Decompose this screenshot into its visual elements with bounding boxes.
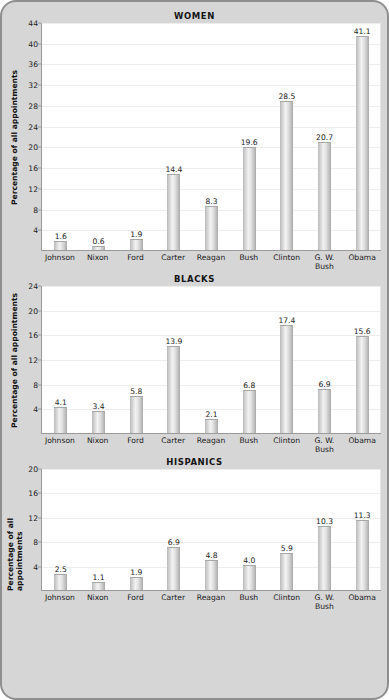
y-axis-ticks: 4812162024 (21, 286, 41, 434)
bar[interactable]: 14.4 (167, 174, 180, 250)
bar[interactable]: 5.8 (130, 396, 143, 433)
figure-panel: WOMENPercentage of all appointments48121… (0, 0, 389, 700)
bar-slot: 1.6 (42, 23, 80, 250)
x-tick-label: Obama (343, 436, 381, 454)
bar[interactable]: 1.6 (54, 241, 67, 250)
bar-slot: 5.9 (268, 469, 306, 590)
x-tick-label: Clinton (268, 436, 306, 454)
y-tick-label: 24 (28, 282, 38, 291)
x-tick-label: G. W. Bush (305, 436, 343, 454)
bar[interactable]: 10.3 (318, 526, 331, 590)
bar-value-label: 0.6 (92, 237, 104, 246)
bar-slot: 4.8 (193, 469, 231, 590)
plot-area: 2.51.11.96.94.84.05.910.311.3 (41, 469, 381, 591)
bar-value-label: 19.6 (241, 138, 258, 147)
x-tick-label: Johnson (41, 436, 79, 454)
bar-value-label: 1.9 (130, 568, 142, 577)
x-tick-label: Nixon (79, 436, 117, 454)
bar[interactable]: 6.8 (243, 390, 256, 433)
bar[interactable]: 6.9 (318, 389, 331, 433)
y-tick-label: 36 (28, 60, 38, 69)
bar[interactable]: 3.4 (92, 411, 105, 433)
plot-wrapper: 2.51.11.96.94.84.05.910.311.3JohnsonNixo… (41, 469, 381, 611)
chart-body: Percentage of all appointments4812162024… (8, 286, 381, 454)
bar-value-label: 10.3 (316, 517, 333, 526)
bar-slot: 1.9 (117, 469, 155, 590)
bar[interactable]: 2.1 (205, 419, 218, 433)
bar-value-label: 17.4 (278, 316, 295, 325)
bar[interactable]: 0.6 (92, 246, 105, 250)
y-axis-label: Percentage of all appointments (8, 286, 21, 434)
bar-slot: 15.6 (343, 286, 381, 433)
bar-slot: 6.8 (230, 286, 268, 433)
bar-slot: 3.4 (80, 286, 118, 433)
y-axis-ticks: 48121620242832364044 (21, 23, 41, 251)
bar-slot: 0.6 (80, 23, 118, 250)
y-tick-label: 16 (28, 331, 38, 340)
bar-slot: 14.4 (155, 23, 193, 250)
bar-value-label: 5.9 (281, 544, 293, 553)
bar-value-label: 1.9 (130, 230, 142, 239)
y-tick-label: 16 (28, 164, 38, 173)
y-tick-label: 44 (28, 19, 38, 28)
x-tick-label: Carter (154, 593, 192, 611)
bar-value-label: 2.5 (55, 565, 67, 574)
plot-wrapper: 1.60.61.914.48.319.628.520.741.1JohnsonN… (41, 23, 381, 271)
bar-value-label: 20.7 (316, 133, 333, 142)
bar[interactable]: 17.4 (280, 325, 293, 433)
bar[interactable]: 4.0 (243, 565, 256, 590)
bar[interactable]: 41.1 (356, 36, 369, 250)
bar-group: 1.60.61.914.48.319.628.520.741.1 (42, 23, 381, 250)
bar[interactable]: 2.5 (54, 574, 67, 590)
bar[interactable]: 13.9 (167, 346, 180, 433)
x-tick-label: Carter (154, 436, 192, 454)
bar-value-label: 4.0 (243, 556, 255, 565)
bar-slot: 13.9 (155, 286, 193, 433)
bar-value-label: 13.9 (165, 337, 182, 346)
bar[interactable]: 15.6 (356, 336, 369, 433)
chart-block-blacks: BLACKSPercentage of all appointments4812… (8, 271, 381, 454)
bar-value-label: 1.1 (92, 573, 104, 582)
x-tick-label: Nixon (79, 253, 117, 271)
x-tick-label: Carter (154, 253, 192, 271)
bar[interactable]: 4.8 (205, 560, 218, 590)
chart-title: WOMEN (8, 8, 381, 23)
bar-slot: 2.1 (193, 286, 231, 433)
bar[interactable]: 1.9 (130, 577, 143, 590)
bar-value-label: 8.3 (205, 197, 217, 206)
bar[interactable]: 19.6 (243, 147, 256, 250)
bar[interactable]: 1.9 (130, 239, 143, 250)
bar[interactable]: 11.3 (356, 520, 369, 590)
bar-value-label: 6.8 (243, 381, 255, 390)
bar[interactable]: 4.1 (54, 407, 67, 433)
bar-group: 2.51.11.96.94.84.05.910.311.3 (42, 469, 381, 590)
bar-slot: 4.1 (42, 286, 80, 433)
bar-value-label: 2.1 (205, 410, 217, 419)
x-tick-label: Johnson (41, 593, 79, 611)
x-tick-label: Nixon (79, 593, 117, 611)
x-tick-label: Ford (117, 436, 155, 454)
x-tick-label: Clinton (268, 253, 306, 271)
bar-slot: 6.9 (155, 469, 193, 590)
bar[interactable]: 6.9 (167, 547, 180, 590)
chart-block-women: WOMENPercentage of all appointments48121… (8, 8, 381, 271)
bar-slot: 5.8 (117, 286, 155, 433)
bar-value-label: 6.9 (168, 538, 180, 547)
bar-slot: 10.3 (306, 469, 344, 590)
x-tick-label: G. W. Bush (305, 253, 343, 271)
bar-value-label: 28.5 (278, 92, 295, 101)
chart-body: Percentage of all appointments4812162024… (8, 23, 381, 271)
x-tick-label: Johnson (41, 253, 79, 271)
x-axis-labels: JohnsonNixonFordCarterReaganBushClintonG… (41, 434, 381, 454)
bar[interactable]: 8.3 (205, 206, 218, 250)
bar[interactable]: 5.9 (280, 553, 293, 590)
bar-value-label: 5.8 (130, 387, 142, 396)
bar[interactable]: 1.1 (92, 582, 105, 590)
x-tick-label: Obama (343, 253, 381, 271)
x-tick-label: Reagan (192, 253, 230, 271)
bar[interactable]: 28.5 (280, 101, 293, 250)
bar-value-label: 41.1 (354, 27, 371, 36)
bar[interactable]: 20.7 (318, 142, 331, 250)
x-tick-label: Reagan (192, 593, 230, 611)
x-axis-labels: JohnsonNixonFordCarterReaganBushClintonG… (41, 591, 381, 611)
